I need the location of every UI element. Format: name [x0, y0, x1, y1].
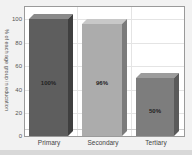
bar-side — [68, 14, 73, 136]
bar-side — [174, 73, 179, 136]
bar-value-label: 50% — [136, 108, 174, 114]
bar-top — [29, 14, 73, 19]
bar-value-label: 100% — [29, 80, 68, 86]
y-tick: 20 — [10, 110, 22, 116]
bar-top — [136, 73, 179, 78]
y-axis-label: % of each age group in education — [4, 29, 10, 111]
bar-top — [82, 19, 127, 24]
bar-side — [122, 19, 127, 136]
bottom-strip — [0, 150, 192, 155]
vgridline — [77, 7, 78, 136]
bar-front — [29, 19, 68, 136]
y-tick: 60 — [10, 63, 22, 69]
y-tick: 40 — [10, 87, 22, 93]
x-tick-label: Secondary — [80, 139, 126, 146]
x-tick-label: Primary — [26, 139, 72, 146]
x-tick-label: Tertiary — [133, 139, 179, 146]
y-tick: 80 — [10, 40, 22, 46]
y-tick: 0 — [10, 133, 22, 139]
bar-front — [136, 78, 174, 136]
y-tick: 100 — [10, 16, 22, 22]
vgridline — [131, 7, 132, 136]
bar-value-label: 96% — [82, 80, 122, 86]
